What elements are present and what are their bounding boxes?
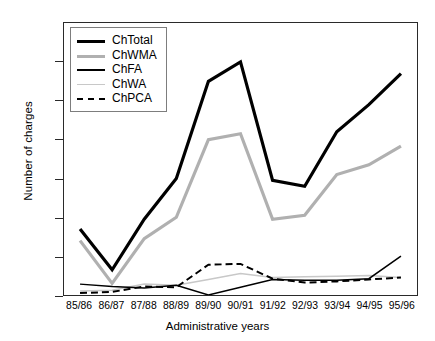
legend-label: ChTotal (112, 33, 153, 47)
legend-swatch-icon (77, 63, 105, 75)
legend-item-chfa[interactable]: ChFA (77, 62, 157, 77)
legend-label: ChWMA (112, 48, 157, 62)
y-tick-mark (55, 257, 63, 258)
legend-label: ChPCA (112, 91, 152, 105)
legend-swatch-icon (77, 34, 105, 46)
legend: ChTotalChWMAChFAChWAChPCA (70, 27, 167, 112)
legend-label: ChWA (112, 77, 146, 91)
legend-item-chpca[interactable]: ChPCA (77, 91, 157, 106)
legend-item-chtotal[interactable]: ChTotal (77, 33, 157, 48)
y-tick-mark (55, 139, 63, 140)
legend-swatch-icon (77, 92, 105, 104)
legend-swatch-icon (77, 78, 105, 90)
series-line-chwma (80, 134, 401, 284)
x-axis-title: Administrative years (0, 320, 435, 332)
legend-swatch-icon (77, 49, 105, 61)
y-tick-mark (55, 179, 63, 180)
series-line-chpca (80, 264, 401, 293)
legend-item-chwma[interactable]: ChWMA (77, 48, 157, 63)
y-tick-mark (55, 100, 63, 101)
legend-item-chwa[interactable]: ChWA (77, 77, 157, 92)
chart-figure: Number of charges Administrative years 0… (0, 0, 435, 341)
x-tick-label: 95/96 (379, 300, 425, 311)
y-tick-mark (55, 296, 63, 297)
y-tick-mark (55, 61, 63, 62)
legend-label: ChFA (112, 62, 142, 76)
y-axis-title: Number of charges (22, 71, 34, 231)
y-tick-mark (55, 218, 63, 219)
